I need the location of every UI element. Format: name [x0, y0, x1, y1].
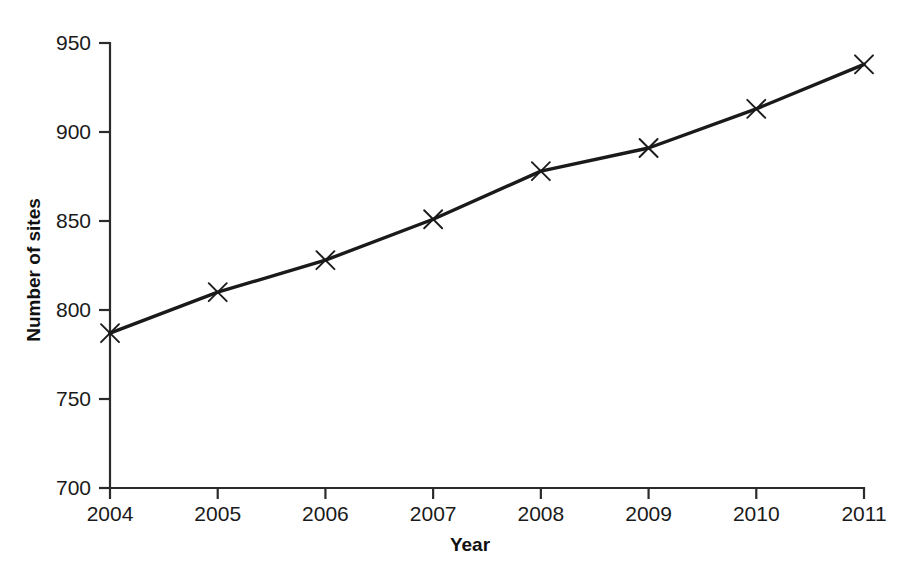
data-point-2011 — [855, 55, 873, 73]
y-tick-group — [99, 43, 110, 488]
data-point-2010 — [747, 100, 765, 118]
y-axis: 700750800850900950 — [56, 31, 110, 499]
chart-canvas: 700750800850900950 200420052006200720082… — [0, 0, 909, 574]
x-tick-label-2011: 2011 — [841, 502, 886, 525]
x-tick-label-2008: 2008 — [517, 502, 564, 525]
series-marker-group — [101, 55, 873, 342]
y-axis-title: Number of sites — [23, 198, 44, 342]
y-tick-label-900: 900 — [56, 120, 91, 143]
x-axis: 20042005200620072008200920102011 — [87, 488, 887, 525]
y-tick-label-750: 750 — [56, 387, 91, 410]
y-tick-label-850: 850 — [56, 209, 91, 232]
x-tick-group — [110, 488, 864, 499]
line-chart: 700750800850900950 200420052006200720082… — [0, 0, 909, 574]
x-tick-label-2010: 2010 — [733, 502, 780, 525]
y-tick-label-950: 950 — [56, 31, 91, 54]
x-tick-label-2009: 2009 — [625, 502, 672, 525]
y-tick-label-group: 700750800850900950 — [56, 31, 91, 499]
x-tick-label-group: 20042005200620072008200920102011 — [87, 502, 887, 525]
x-tick-label-2004: 2004 — [87, 502, 134, 525]
data-point-2006 — [316, 251, 334, 269]
y-tick-label-800: 800 — [56, 298, 91, 321]
y-tick-label-700: 700 — [56, 476, 91, 499]
data-point-2005 — [209, 283, 227, 301]
x-tick-label-2007: 2007 — [410, 502, 457, 525]
data-point-2007 — [424, 210, 442, 228]
x-tick-label-2005: 2005 — [194, 502, 241, 525]
x-axis-title: Year — [450, 534, 491, 555]
x-tick-label-2006: 2006 — [302, 502, 349, 525]
